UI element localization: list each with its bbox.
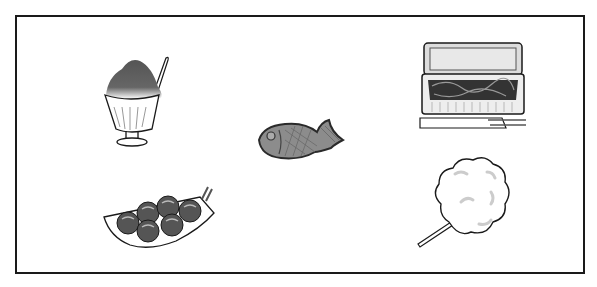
taiyaki-illustration: Taiyaki [255, 118, 347, 164]
kakigori-illustration: Shaved ice (kakigori) [100, 55, 175, 150]
kakigori-icon [100, 55, 175, 150]
cotton-candy-icon [415, 152, 515, 250]
takoyaki-icon [100, 185, 225, 250]
takoyaki-illustration: Takoyaki [100, 185, 225, 250]
taiyaki-icon [255, 118, 347, 164]
cotton-candy-illustration: Cotton candy [415, 152, 515, 250]
yakisoba-illustration: Yakisoba in takeout box [418, 40, 528, 130]
yakisoba-icon [418, 40, 528, 130]
